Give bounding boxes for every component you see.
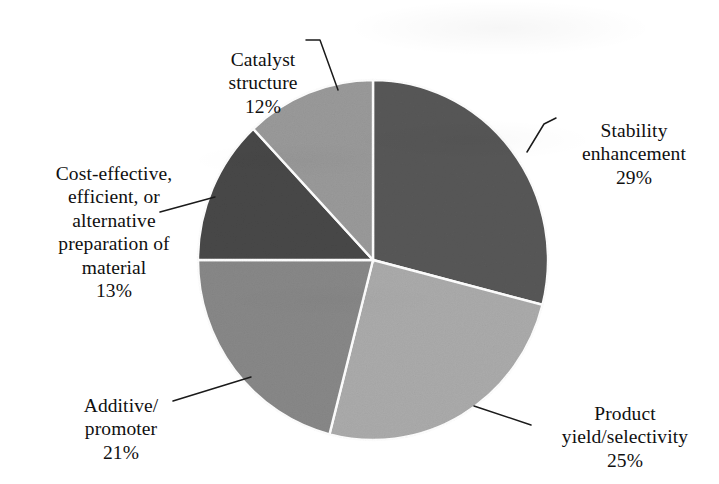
pie-label-additive-promoter-text: Additive/ promoter <box>84 395 159 440</box>
pie-label-cost-effective: Cost-effective, efficient, or alternativ… <box>16 138 212 326</box>
pie-label-product-yield: Product yield/selectivity 25% <box>531 378 719 484</box>
pie-label-cost-effective-percent: 13% <box>16 279 212 303</box>
pie-label-product-yield-text: Product yield/selectivity <box>562 403 688 448</box>
pie-label-stability-enhancement-text: Stability enhancement <box>582 120 686 165</box>
pie-label-cost-effective-text: Cost-effective, efficient, or alternativ… <box>56 163 172 278</box>
pie-chart-figure: Catalyst structure 12% Cost-effective, e… <box>0 0 719 484</box>
leader-line-product-yield <box>474 406 531 425</box>
pie-label-catalyst-structure-text: Catalyst structure <box>228 49 297 94</box>
pie-label-stability-enhancement-percent: 29% <box>549 166 719 190</box>
pie-label-catalyst-structure-percent: 12% <box>183 95 343 119</box>
pie-label-catalyst-structure: Catalyst structure 12% <box>183 24 343 142</box>
pie-label-product-yield-percent: 25% <box>531 449 719 473</box>
pie-label-stability-enhancement: Stability enhancement 29% <box>549 95 719 213</box>
pie-label-additive-promoter-percent: 21% <box>45 441 197 465</box>
pie-label-additive-promoter: Additive/ promoter 21% <box>45 370 197 484</box>
